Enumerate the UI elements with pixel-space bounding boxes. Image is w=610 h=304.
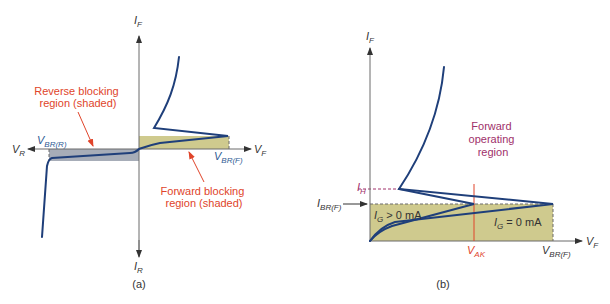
panel-a: IF IR VF VR VBR(R) VBR(F) Reverse blocki… — [12, 14, 267, 290]
vak-label: VAK — [467, 244, 486, 259]
vr-label-a: VR — [12, 143, 25, 158]
ih-label: IH — [357, 181, 366, 196]
vbr-f-label-b: VBR(F) — [542, 244, 571, 259]
panel-b: IF VF IH IBR(F) VAK VBR(F) IG > 0 mA IG … — [317, 30, 599, 290]
scr-characteristics-diagram: IF IR VF VR VBR(R) VBR(F) Reverse blocki… — [0, 0, 610, 304]
vbr-f-label-a: VBR(F) — [214, 150, 243, 165]
forward-blocking-note: Forward blocking region (shaded) — [161, 185, 248, 209]
vf-label-b: VF — [586, 235, 599, 250]
reverse-note-arrow — [78, 112, 93, 146]
if-label-b: IF — [366, 30, 375, 45]
vf-label-a: VF — [254, 143, 267, 158]
ibr-f-label: IBR(F) — [317, 197, 342, 212]
if-label-a: IF — [134, 14, 143, 29]
vbr-r-label: VBR(R) — [37, 134, 67, 149]
caption-b: (b) — [436, 278, 449, 290]
forward-note-arrow — [189, 152, 204, 182]
ir-label-a: IR — [134, 260, 143, 275]
reverse-blocking-note: Reverse blocking region (shaded) — [34, 85, 121, 109]
forward-operating-region-label: Forward operating region — [469, 120, 518, 158]
caption-a: (a) — [132, 278, 145, 290]
